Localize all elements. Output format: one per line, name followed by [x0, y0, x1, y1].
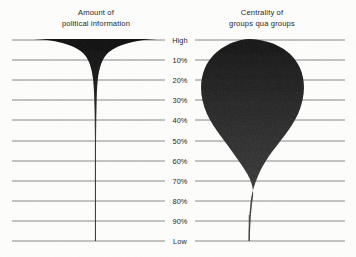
axis-tick-80: 80%	[162, 197, 198, 206]
series-shape-group-centrality	[201, 39, 304, 241]
axis-tick-10: 10%	[162, 56, 198, 65]
axis-tick-60: 60%	[162, 157, 198, 166]
axis-tick-low: Low	[162, 237, 198, 246]
axis-tick-high: High	[162, 36, 198, 45]
chart-title-right: Centrality of groups qua groups	[196, 7, 328, 29]
axis-tick-40: 40%	[162, 116, 198, 125]
figure-container: Amount of political information Centrali…	[0, 0, 356, 257]
series-shape-political-information	[34, 39, 157, 241]
axis-tick-50: 50%	[162, 137, 198, 146]
axis-tick-90: 90%	[162, 217, 198, 226]
axis-tick-30: 30%	[162, 96, 198, 105]
chart-title-left: Amount of political information	[30, 7, 162, 29]
axis-tick-70: 70%	[162, 177, 198, 186]
axis-tick-20: 20%	[162, 76, 198, 85]
